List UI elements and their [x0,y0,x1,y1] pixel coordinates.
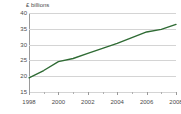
plot-area [29,13,176,92]
x-axis-tick [88,92,89,95]
y-axis-tick-label: 15 [20,89,27,95]
data-series-line [29,13,176,92]
x-axis-tick-minor [73,92,74,94]
y-axis-tick-labels: 403530252015 [8,0,27,114]
x-axis-tick-label: 2008 [169,99,181,105]
y-axis-tick-label: 30 [20,42,27,48]
x-axis-tick-minor [132,92,133,94]
x-axis-tick-label: 2004 [111,99,124,105]
x-axis-tick-minor [103,92,104,94]
x-axis-tick-minor [161,92,162,94]
x-axis-tick [29,92,30,95]
x-axis-tick [176,92,177,95]
x-axis-tick-label: 1998 [22,99,35,105]
x-axis-tick [117,92,118,95]
y-axis-tick-label: 20 [20,73,27,79]
x-axis-tick-minor [44,92,45,94]
line-chart: £ billions 403530252015 1998200020022004… [0,0,181,114]
y-axis-tick-label: 25 [20,57,27,63]
y-axis-unit-label: £ billions [26,2,49,9]
x-axis-tick [58,92,59,95]
x-axis-tick-label: 2002 [81,99,94,105]
x-axis-tick-label: 2006 [140,99,153,105]
y-axis-tick-label: 40 [20,10,27,16]
x-axis-tick-label: 2000 [52,99,65,105]
y-axis-tick-label: 35 [20,26,27,32]
x-axis-tick [147,92,148,95]
